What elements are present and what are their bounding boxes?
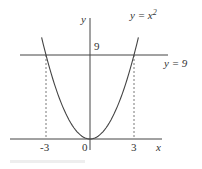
y-axis-label: y: [80, 13, 86, 25]
x-tick-0: 0: [82, 141, 88, 153]
x-tick-3: 3: [131, 141, 137, 153]
x-axis-label: x: [155, 141, 161, 153]
parabola-diagram: y 9 y = x2 y = 9 -3 0 3 x: [0, 0, 202, 169]
curve-label: y = x2: [129, 8, 157, 21]
x-tick-neg3: -3: [40, 141, 50, 153]
line-label: y = 9: [163, 57, 188, 69]
y-tick-9: 9: [94, 40, 100, 52]
figure-caption-faint: [10, 160, 85, 163]
